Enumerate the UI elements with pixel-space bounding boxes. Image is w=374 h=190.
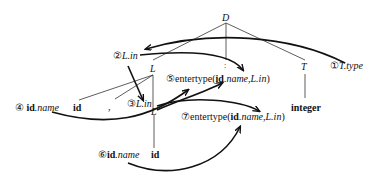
- node-id-2: id: [151, 150, 159, 160]
- node-integer: integer: [291, 103, 321, 113]
- node-id-1: id: [73, 103, 81, 113]
- node-comma: ,: [108, 102, 111, 112]
- node-T: T: [301, 62, 307, 72]
- tree-edges: [0, 0, 374, 190]
- annotation-2-L-in: ②L.in: [113, 51, 138, 61]
- node-L-top: L: [150, 64, 156, 74]
- annotation-1-T-type: ①T.type: [330, 61, 363, 71]
- annotation-6-id-name: ⑥id.name: [98, 150, 140, 160]
- annotation-4-id-name: ④ id.name: [15, 103, 59, 113]
- node-D: D: [222, 13, 229, 23]
- annotation-3-L-in: ③L.in: [127, 99, 152, 109]
- node-ellipsis: :: [224, 62, 226, 70]
- annotation-5-entertype: ⑤entertype(id.name,L.in): [166, 74, 270, 84]
- annotation-7-entertype: ⑦entertype(id.name,L.in): [181, 112, 285, 122]
- dependency-graph: D T L : L integer id , id ①T.type ②L.in …: [0, 0, 374, 190]
